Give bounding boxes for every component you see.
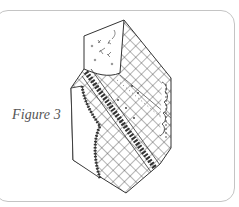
- garment-illustration: [0, 0, 239, 207]
- collar-piece: [84, 20, 124, 75]
